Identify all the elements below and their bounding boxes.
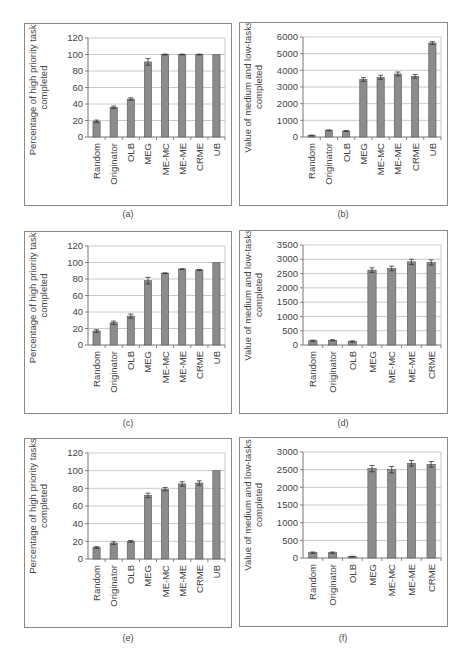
svg-text:0: 0 <box>293 552 298 563</box>
bar-me-mc <box>161 487 168 559</box>
bar-me-me <box>179 269 186 345</box>
svg-text:3000: 3000 <box>277 446 298 457</box>
svg-text:100: 100 <box>67 465 83 476</box>
y-axis-label: Percentage of high priority taskscomplet… <box>27 439 49 574</box>
svg-text:completed: completed <box>253 65 264 109</box>
y-axis-ticks: 0500100015002000250030003500 <box>277 239 303 350</box>
svg-text:ME-MC: ME-MC <box>386 351 397 383</box>
svg-text:Random: Random <box>91 143 102 179</box>
bar-ub <box>213 55 220 138</box>
svg-text:Value of medium and low-tasks: Value of medium and low-tasks <box>242 23 253 153</box>
svg-text:0: 0 <box>78 339 83 350</box>
svg-text:3500: 3500 <box>277 239 298 250</box>
panel-caption-d: (d) <box>313 418 373 428</box>
chart-panel-c: Percentage of high priority taskscomplet… <box>24 231 232 414</box>
panel-caption-a: (a) <box>98 209 158 219</box>
svg-text:2000: 2000 <box>277 98 298 109</box>
bar-me-me <box>179 54 186 137</box>
svg-text:60: 60 <box>72 82 83 93</box>
x-axis-tick-labels: RandomOriginatorOLBMEGME-MCME-MECRMEUB <box>91 137 225 185</box>
bar-chart-f: Value of medium and low-taskscompleted05… <box>240 438 449 628</box>
chart-panel-e: Percentage of high priority taskscomplet… <box>24 438 232 628</box>
svg-text:0: 0 <box>78 553 83 564</box>
chart-panel-a: Percentage of high priority taskscomplet… <box>24 23 232 206</box>
svg-text:ME-ME: ME-ME <box>177 143 188 175</box>
gridlines <box>88 38 225 137</box>
svg-text:OLB: OLB <box>347 351 358 370</box>
bar-originator <box>110 106 117 137</box>
svg-text:ME-ME: ME-ME <box>177 565 188 597</box>
svg-text:500: 500 <box>282 535 298 546</box>
svg-text:Value of medium and low-tasks: Value of medium and low-tasks <box>242 439 253 571</box>
svg-text:5000: 5000 <box>277 48 298 59</box>
svg-text:UB: UB <box>211 143 222 156</box>
chart-panel-d: Value of medium and low-taskscompleted05… <box>239 230 448 414</box>
bar-me-mc <box>388 466 396 558</box>
y-axis-ticks: 020406080100120 <box>67 447 88 564</box>
bar-random <box>93 120 100 137</box>
panel-caption-b: (b) <box>313 209 373 219</box>
gridlines <box>88 246 225 345</box>
bar-chart-a: Percentage of high priority taskscomplet… <box>25 24 233 207</box>
svg-text:ME-MC: ME-MC <box>375 143 386 175</box>
svg-text:3000: 3000 <box>277 81 298 92</box>
svg-text:completed: completed <box>38 274 49 318</box>
svg-text:completed: completed <box>253 483 264 527</box>
bar-meg <box>368 465 376 558</box>
svg-text:40: 40 <box>72 306 83 317</box>
bars <box>93 54 220 137</box>
bar-ub <box>213 263 220 346</box>
svg-text:40: 40 <box>72 518 83 529</box>
bar-random <box>308 135 315 137</box>
svg-text:OLB: OLB <box>125 143 136 162</box>
svg-text:Originator: Originator <box>323 143 334 185</box>
y-axis-ticks: 020406080100120 <box>67 240 88 350</box>
svg-text:Value of medium and low-tasks: Value of medium and low-tasks <box>242 231 253 361</box>
svg-text:ME-MC: ME-MC <box>386 564 397 596</box>
svg-text:CRME: CRME <box>194 565 205 593</box>
svg-text:Originator: Originator <box>327 351 338 393</box>
svg-text:Originator: Originator <box>108 143 119 185</box>
bar-chart-b: Value of medium and low-taskscompleted01… <box>240 23 449 207</box>
bar-olb <box>348 341 356 345</box>
bar-meg <box>360 78 367 137</box>
svg-text:completed: completed <box>38 484 49 528</box>
svg-text:60: 60 <box>72 290 83 301</box>
bar-meg <box>144 59 151 137</box>
bars <box>93 263 220 346</box>
svg-text:120: 120 <box>67 32 83 43</box>
svg-text:20: 20 <box>72 115 83 126</box>
bar-originator <box>110 542 117 559</box>
svg-text:80: 80 <box>72 483 83 494</box>
svg-text:6000: 6000 <box>277 31 298 42</box>
x-axis-tick-labels: RandomOriginatorOLBMEGME-MCME-MECRME <box>307 558 441 606</box>
gridlines <box>88 453 225 559</box>
svg-text:1500: 1500 <box>277 296 298 307</box>
svg-text:Random: Random <box>91 565 102 601</box>
svg-text:CRME: CRME <box>410 143 421 171</box>
y-axis-ticks: 0100020003000400050006000 <box>277 31 303 142</box>
x-axis-tick-labels: RandomOriginatorOLBMEGME-MCME-MECRMEUB <box>91 345 225 393</box>
svg-text:ME-ME: ME-ME <box>177 351 188 383</box>
svg-text:MEG: MEG <box>142 351 153 373</box>
bar-random <box>93 330 100 345</box>
bar-meg <box>144 493 151 559</box>
svg-text:CRME: CRME <box>426 351 437 379</box>
chart-panel-b: Value of medium and low-taskscompleted01… <box>239 22 448 206</box>
svg-text:20: 20 <box>72 536 83 547</box>
svg-text:2000: 2000 <box>277 482 298 493</box>
bar-crme <box>196 54 203 137</box>
svg-text:2500: 2500 <box>277 464 298 475</box>
bar-crme <box>196 270 203 345</box>
y-axis-ticks: 050010001500200025003000 <box>277 446 303 563</box>
bar-olb <box>127 314 134 345</box>
svg-text:100: 100 <box>67 257 83 268</box>
svg-text:Random: Random <box>307 351 318 387</box>
bar-ub <box>429 42 436 137</box>
svg-text:Random: Random <box>306 143 317 179</box>
y-axis-label: Value of medium and low-taskscompleted <box>242 439 264 571</box>
svg-text:completed: completed <box>38 66 49 110</box>
svg-text:0: 0 <box>293 339 298 350</box>
svg-text:OLB: OLB <box>125 565 136 584</box>
svg-text:0: 0 <box>78 131 83 142</box>
